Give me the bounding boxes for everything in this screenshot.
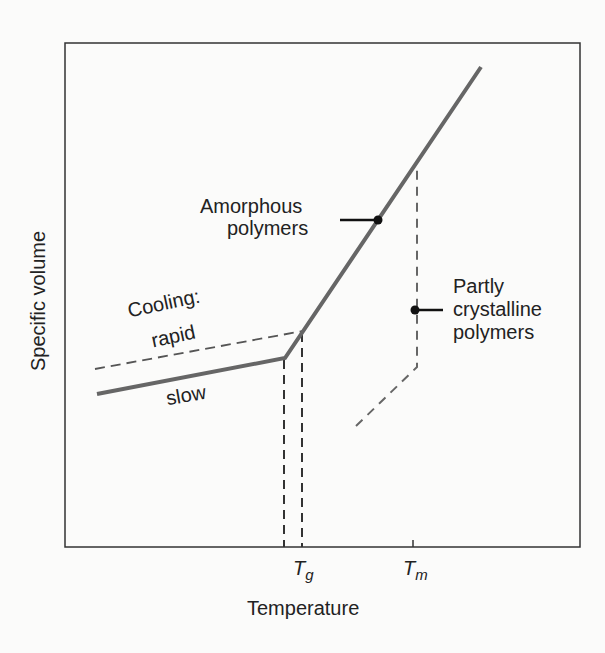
crystalline-label-3: polymers <box>453 321 534 343</box>
tm-tick-label: Tm <box>403 557 428 586</box>
x-axis-label: Temperature <box>247 597 359 619</box>
amorphous-label-2: polymers <box>227 217 308 239</box>
y-axis-label: Specific volume <box>27 231 49 371</box>
crystalline-marker <box>411 306 420 315</box>
rapid-cooling-curve <box>95 331 303 369</box>
crystalline-curve <box>356 162 417 426</box>
crystalline-label-2: crystalline <box>453 298 542 320</box>
crystalline-label-1: Partly <box>453 275 504 297</box>
amorphous-label-1: Amorphous <box>200 195 302 217</box>
amorphous-marker <box>374 216 383 225</box>
tg-tick-label: Tg <box>293 557 314 586</box>
